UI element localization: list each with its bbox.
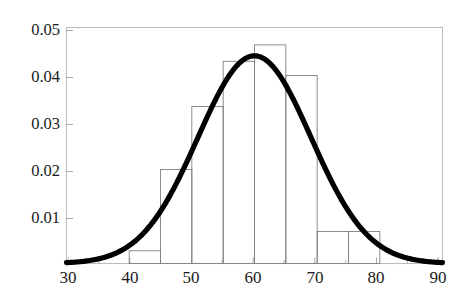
histogram-bar	[286, 75, 317, 263]
histogram-bar	[192, 106, 223, 263]
plot-canvas	[0, 0, 463, 307]
histogram-bar	[223, 61, 254, 263]
x-tick-label-80: 80	[356, 269, 396, 286]
x-tick-label-40: 40	[110, 269, 150, 286]
histogram-bar	[129, 251, 160, 264]
x-tick-label-50: 50	[171, 269, 211, 286]
y-tick-label-0.03: 0.03	[8, 116, 60, 133]
x-tick-marks	[68, 258, 438, 264]
y-tick-marks	[67, 31, 74, 219]
y-tick-label-0.04: 0.04	[8, 69, 60, 86]
y-tick-label-0.02: 0.02	[8, 163, 60, 180]
x-tick-label-70: 70	[295, 269, 335, 286]
y-tick-label-0.01: 0.01	[8, 210, 60, 227]
chart-figure: 0.05 0.04 0.03 0.02 0.01 30 40 50 60 70 …	[0, 0, 463, 307]
histogram-bars	[129, 45, 380, 264]
y-tick-label-0.05: 0.05	[8, 22, 60, 39]
x-tick-label-90: 90	[418, 269, 458, 286]
x-tick-label-60: 60	[233, 269, 273, 286]
x-tick-label-30: 30	[48, 269, 88, 286]
histogram-bar	[317, 232, 348, 264]
histogram-bar	[349, 232, 380, 264]
